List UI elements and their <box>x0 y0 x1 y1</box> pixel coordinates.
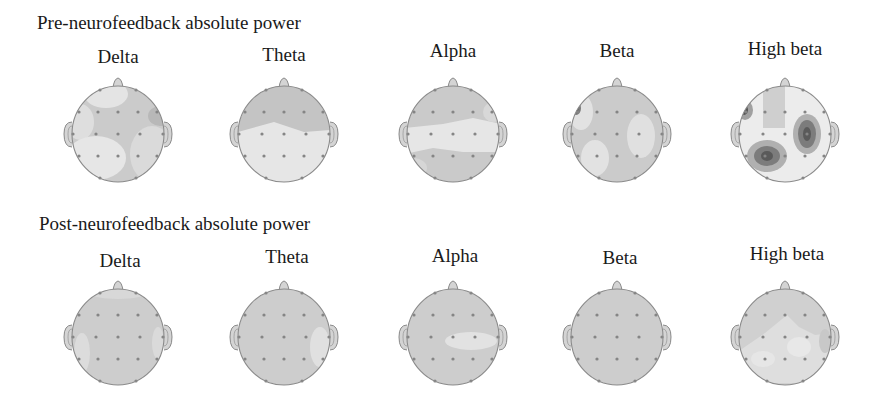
electrode-dot <box>635 154 638 157</box>
electrode-dot <box>615 110 618 113</box>
electrode-dot <box>803 154 806 157</box>
electrode-dot <box>803 357 806 360</box>
electrode-dot <box>282 154 285 157</box>
electrode-dot <box>94 132 97 135</box>
electrode-dot <box>471 154 474 157</box>
electrode-dot <box>282 132 285 135</box>
electrode-dot <box>451 313 454 316</box>
electrode-dot <box>763 154 766 157</box>
electrode-dot <box>803 313 806 316</box>
electrode-dot <box>635 110 638 113</box>
electrode-dot <box>262 154 265 157</box>
electrode-dot <box>763 357 766 360</box>
electrode-dot <box>136 357 139 360</box>
electrode-dot <box>116 313 119 316</box>
electrode-dot <box>262 357 265 360</box>
electrode-dot <box>615 154 618 157</box>
electrode-dot <box>783 110 786 113</box>
electrode-dot <box>615 313 618 316</box>
electrode-dot <box>262 110 265 113</box>
electrode-dot <box>593 335 596 338</box>
electrode-dot <box>473 335 476 338</box>
topomap-pre-beta <box>563 78 671 182</box>
topomap-pre-high-beta <box>731 78 839 182</box>
electrode-dot <box>260 132 263 135</box>
electrode-dot <box>262 313 265 316</box>
electrode-dot <box>783 313 786 316</box>
topomap-pre-theta <box>230 78 338 182</box>
electrode-dot <box>282 110 285 113</box>
electrode-dot <box>595 313 598 316</box>
electrode-dot <box>431 357 434 360</box>
electrode-dot <box>783 357 786 360</box>
electrode-dot <box>282 335 285 338</box>
electrode-dot <box>451 335 454 338</box>
electrode-dot <box>260 335 263 338</box>
electrode-dot <box>429 132 432 135</box>
electrode-dot <box>138 132 141 135</box>
electrode-dot <box>451 110 454 113</box>
electrode-dot <box>302 313 305 316</box>
electrode-dot <box>451 154 454 157</box>
topomap-pre-delta <box>64 78 174 182</box>
electrode-dot <box>282 357 285 360</box>
electrode-dot <box>96 110 99 113</box>
electrode-dot <box>635 357 638 360</box>
topomap-pre-alpha <box>399 78 507 182</box>
electrode-dot <box>615 335 618 338</box>
electrode-dot <box>136 110 139 113</box>
topomap-post-alpha <box>399 281 507 385</box>
electrode-dot <box>138 335 141 338</box>
electrode-dot <box>136 313 139 316</box>
electrode-dot <box>805 335 808 338</box>
electrode-dot <box>637 132 640 135</box>
electrode-dot <box>304 132 307 135</box>
electrode-dot <box>761 335 764 338</box>
electrode-dot <box>473 132 476 135</box>
electrode-dot <box>96 313 99 316</box>
electrode-dot <box>116 110 119 113</box>
topomap-post-beta <box>563 281 671 385</box>
electrode-dot <box>116 154 119 157</box>
electrode-dot <box>761 132 764 135</box>
topomap-post-theta <box>230 281 338 385</box>
electrode-dot <box>431 154 434 157</box>
electrode-dot <box>451 357 454 360</box>
electrode-dot <box>783 132 786 135</box>
electrode-dot <box>116 357 119 360</box>
topographic-maps <box>0 0 875 410</box>
electrode-dot <box>595 110 598 113</box>
electrode-dot <box>803 110 806 113</box>
electrode-dot <box>116 335 119 338</box>
electrode-dot <box>595 154 598 157</box>
electrode-dot <box>94 335 97 338</box>
topomap-post-delta <box>64 281 172 385</box>
electrode-dot <box>96 357 99 360</box>
electrode-dot <box>282 313 285 316</box>
electrode-dot <box>116 132 119 135</box>
electrode-dot <box>302 357 305 360</box>
electrode-dot <box>304 335 307 338</box>
electrode-dot <box>429 335 432 338</box>
electrode-dot <box>431 313 434 316</box>
electrode-dot <box>471 357 474 360</box>
electrode-dot <box>595 357 598 360</box>
electrode-dot <box>451 132 454 135</box>
electrode-dot <box>763 110 766 113</box>
electrode-dot <box>615 357 618 360</box>
electrode-dot <box>615 132 618 135</box>
electrode-dot <box>635 313 638 316</box>
electrode-dot <box>96 154 99 157</box>
topomap-post-high-beta <box>731 281 839 385</box>
electrode-dot <box>302 110 305 113</box>
electrode-dot <box>431 110 434 113</box>
electrode-dot <box>783 154 786 157</box>
electrode-dot <box>471 110 474 113</box>
electrode-dot <box>805 132 808 135</box>
electrode-dot <box>593 132 596 135</box>
electrode-dot <box>637 335 640 338</box>
electrode-dot <box>471 313 474 316</box>
electrode-dot <box>302 154 305 157</box>
electrode-dot <box>783 335 786 338</box>
electrode-dot <box>763 313 766 316</box>
